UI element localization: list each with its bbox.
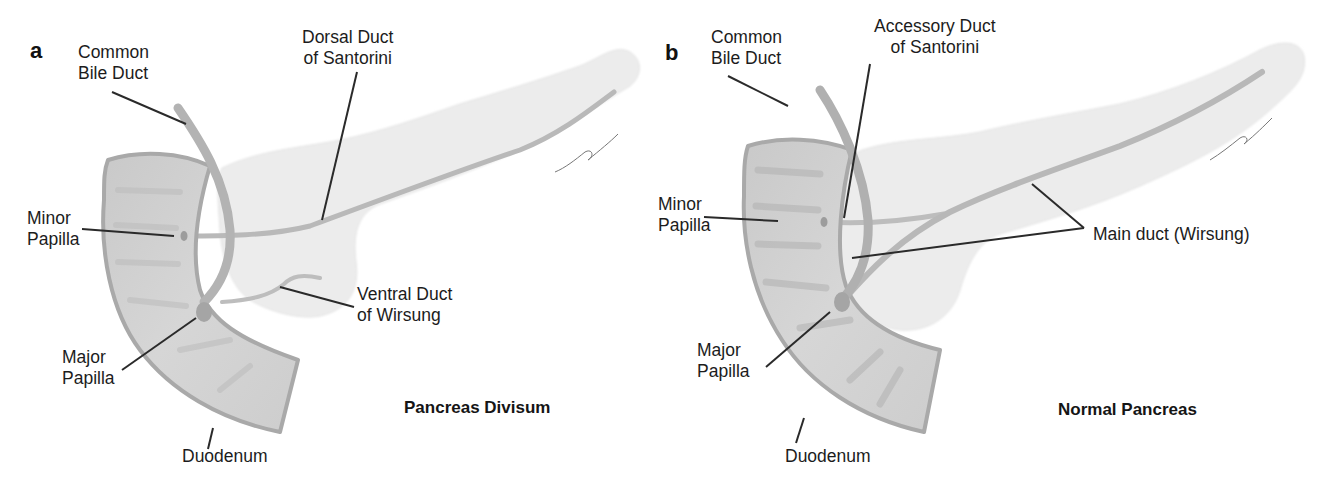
label-dorsal-duct: Dorsal Duct of Santorini: [302, 27, 393, 69]
major-papilla: [196, 302, 212, 322]
label-ventral-duct: Ventral Duct of Wirsung: [357, 284, 452, 326]
minor-papilla: [181, 231, 188, 241]
label-accessory-duct: Accessory Duct of Santorini: [874, 16, 996, 58]
caption-pancreas-divisum: Pancreas Divisum: [404, 398, 550, 418]
label-duodenum: Duodenum: [182, 446, 268, 467]
minor-papilla: [821, 217, 828, 227]
label-duodenum: Duodenum: [785, 446, 871, 467]
label-main-duct: Main duct (Wirsung): [1093, 224, 1250, 245]
panel-letter-a: a: [30, 38, 42, 64]
panel-letter-b: b: [665, 40, 678, 66]
pancreas-shape: [834, 43, 1305, 330]
label-major-papilla: Major Papilla: [62, 347, 115, 389]
label-minor-papilla: Minor Papilla: [27, 208, 80, 250]
label-common-bile-duct: Common Bile Duct: [78, 42, 149, 84]
artist-signature: [555, 134, 618, 172]
major-papilla: [834, 292, 850, 312]
label-common-bile-duct: Common Bile Duct: [711, 27, 782, 69]
panel-a-illustration: [82, 50, 639, 449]
caption-normal-pancreas: Normal Pancreas: [1058, 400, 1197, 420]
label-major-papilla: Major Papilla: [697, 340, 750, 382]
label-minor-papilla: Minor Papilla: [658, 194, 711, 236]
